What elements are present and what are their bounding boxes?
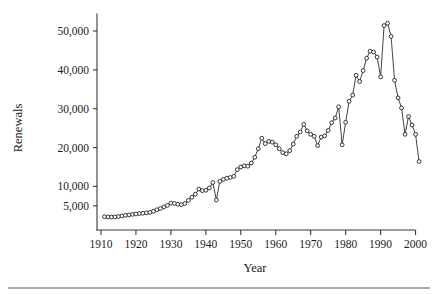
data-point-marker [344,120,348,124]
y-tick-label: 5,000 [63,200,89,213]
x-tick-label: 1970 [299,238,322,250]
data-point-marker [246,164,250,168]
data-point-marker [351,93,355,97]
data-point-marker [291,142,295,146]
data-point-marker [295,134,299,138]
data-point-marker [288,149,292,153]
x-tick-label: 1910 [90,238,113,250]
data-point-marker [333,116,337,120]
data-point-marker [414,132,418,136]
x-tick-label: 2000 [404,238,427,250]
x-tick-label: 1940 [194,238,217,250]
data-point-marker [372,50,376,54]
data-point-marker [298,130,302,134]
data-point-marker [354,73,358,77]
data-point-marker [232,174,236,178]
data-point-marker [166,204,170,208]
data-point-marker [263,142,267,146]
data-point-marker [235,168,239,172]
data-point-marker [361,69,365,73]
renewals-line-chart: 5,00010,00020,00030,00040,00050,000 1910… [0,0,438,294]
data-point-marker [204,188,208,192]
data-point-marker [347,99,351,103]
data-point-marker [365,56,369,60]
x-tick-label: 1990 [369,238,392,250]
x-axis-title: Year [243,261,267,275]
data-point-marker [379,75,383,79]
figure-container: 5,00010,00020,00030,00040,00050,000 1910… [0,0,438,294]
data-point-marker [382,24,386,28]
data-point-marker [270,140,274,144]
data-point-marker [284,152,288,156]
data-point-marker [393,78,397,82]
data-point-marker [337,105,341,109]
x-tick-label: 1920 [124,238,147,250]
data-point-marker [253,155,257,159]
data-point-marker [214,198,218,202]
x-tick-label: 1930 [159,238,182,250]
data-point-marker [277,147,281,151]
data-point-marker [274,143,278,147]
data-point-marker [407,115,411,119]
y-tick-label: 50,000 [57,25,89,38]
data-point-marker [249,161,253,165]
data-point-marker [316,144,320,148]
data-point-marker [403,132,407,136]
data-point-marker [358,80,362,84]
data-point-marker [330,121,334,125]
y-tick-label: 30,000 [57,103,89,116]
data-point-marker [323,134,327,138]
data-point-marker [260,136,264,140]
data-point-marker [190,195,194,199]
x-tick-label: 1950 [229,238,252,250]
data-point-marker [211,181,215,185]
data-point-marker [193,192,197,196]
data-point-marker [400,106,404,110]
data-point-marker [186,198,190,202]
data-point-marker [302,122,306,126]
y-tick-label: 10,000 [57,180,89,193]
data-point-marker [207,186,211,190]
y-tick-label: 40,000 [57,64,89,77]
data-point-marker [386,21,390,25]
x-tick-label: 1960 [264,238,287,250]
data-point-marker [326,129,330,133]
data-point-marker [410,123,414,127]
data-point-marker [417,160,421,164]
x-tick-label: 1980 [334,238,357,250]
data-point-marker [340,143,344,147]
data-point-marker [375,55,379,59]
data-point-marker [305,129,309,133]
data-point-marker [396,96,400,100]
data-point-marker [312,134,316,138]
data-point-marker [256,147,260,151]
data-point-marker [183,202,187,206]
y-axis-title: Renewals [11,104,25,153]
y-tick-label: 20,000 [57,142,89,155]
data-point-marker [389,35,393,39]
